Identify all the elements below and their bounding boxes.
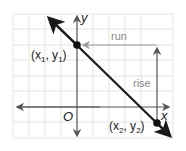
point-2-label: (x2, y2) (109, 119, 145, 135)
y-axis-label: y (80, 10, 89, 25)
x-axis-label: x (160, 108, 168, 123)
point-1 (73, 41, 81, 49)
run-label: run (111, 30, 127, 42)
slope-diagram: y x O run rise (x1, y1) (x2, y2) (0, 0, 186, 151)
origin-label: O (63, 109, 73, 124)
rise-label: rise (133, 77, 151, 89)
grid (13, 14, 173, 138)
point-2 (153, 119, 161, 127)
